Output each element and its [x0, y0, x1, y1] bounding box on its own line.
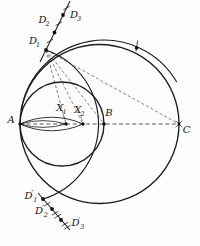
arc-centered-a	[43, 50, 99, 199]
point-d3-prime-dot	[59, 218, 63, 222]
point-a-label: A	[7, 112, 13, 127]
point-d3-label: D3	[70, 7, 81, 22]
point-x1-dot	[64, 122, 67, 125]
point-d2-prime-dot	[50, 207, 54, 211]
tick-mark	[63, 6, 69, 10]
point-b-dot	[102, 122, 106, 126]
tick-mark	[52, 211, 58, 215]
tick-mark	[62, 222, 68, 226]
point-c-dot	[178, 123, 181, 126]
point-d1-prime-dot	[41, 197, 45, 201]
construction-figure: A B C X1 X2 D1 D2 D3 D′1 D′2 D′3	[0, 0, 200, 246]
point-d2-prime-label: D′2	[35, 203, 48, 218]
point-d1-prime-label: D′1	[25, 188, 38, 203]
point-c-label: C	[183, 122, 190, 137]
point-a-dot	[18, 122, 21, 125]
point-b-label: B	[105, 105, 111, 120]
point-d1-dot	[44, 48, 48, 52]
tick-mark	[55, 214, 61, 218]
tick-mark	[64, 225, 70, 229]
point-d3-dot	[61, 13, 65, 17]
point-d2-label: D2	[38, 12, 49, 27]
point-x2-label: X2	[74, 103, 84, 118]
point-x1-label: X1	[56, 101, 66, 116]
point-d3-prime-label: D′3	[72, 215, 85, 230]
arc-marked-point-dot	[135, 46, 139, 50]
point-x2-dot	[81, 122, 84, 125]
point-d2-dot	[53, 31, 57, 35]
point-d1-label: D1	[29, 34, 40, 49]
